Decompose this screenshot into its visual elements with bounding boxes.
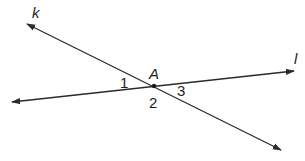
angle-1-label: 1 (120, 75, 128, 90)
line-l-label: l (294, 51, 297, 66)
point-a-label: A (149, 66, 159, 81)
line-k-label: k (32, 5, 40, 20)
point-a-dot (152, 84, 156, 88)
diagram-canvas: k l A 1 2 3 (0, 0, 305, 161)
angle-2-label: 2 (149, 95, 157, 110)
angle-3-label: 3 (177, 83, 185, 98)
